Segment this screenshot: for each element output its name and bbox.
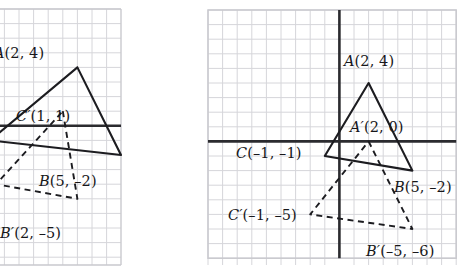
- label-B: B(5, –2): [39, 174, 97, 189]
- label-C-point: C: [236, 145, 247, 161]
- right-coordinate-grid: A(2, 4) A′(2, 0) C(–1, –1) B(5, –2) C′(–…: [204, 6, 462, 270]
- label-B-prime: B′(–5, –6): [366, 244, 434, 259]
- label-A-prime: A′(2, 0): [350, 120, 404, 135]
- label-A: A(2, 4): [0, 46, 44, 61]
- label-A-coords: (2, 4): [355, 53, 395, 69]
- label-A: A(2, 4): [344, 54, 394, 69]
- label-B-prime-coords: (–5, –6): [380, 243, 434, 259]
- label-B-coords: (5, –2): [50, 173, 97, 189]
- label-A-point: A: [344, 53, 355, 69]
- label-C-prime-point: C′: [228, 207, 243, 223]
- label-C-prime: C′(1, 1): [16, 109, 70, 124]
- label-C-prime-coords: (1, 1): [31, 108, 71, 124]
- label-B-point: B: [39, 173, 50, 189]
- label-B-prime-point: B′: [366, 243, 380, 259]
- label-A-coords: (2, 4): [5, 45, 45, 61]
- label-A-prime-point: A′: [350, 119, 364, 135]
- label-B-point: B: [394, 179, 405, 195]
- right-grid-svg: [204, 6, 462, 270]
- label-A-prime-coords: (2, 0): [364, 119, 404, 135]
- label-B-prime-coords: (2, –5): [14, 225, 61, 241]
- label-B-coords: (5, –2): [405, 179, 452, 195]
- label-C-prime-coords: (–1, –5): [243, 207, 297, 223]
- right-grid-background: [204, 6, 462, 270]
- left-coordinate-grid: A(2, 4) C′(1, 1) B(5, –2) B′(2, –5): [0, 6, 126, 270]
- label-C-prime-point: C′: [16, 108, 31, 124]
- label-B-prime-point: B′: [0, 225, 14, 241]
- figure-container: A(2, 4) C′(1, 1) B(5, –2) B′(2, –5): [0, 0, 468, 276]
- label-B: B(5, –2): [394, 180, 452, 195]
- label-C-prime: C′(–1, –5): [228, 208, 297, 223]
- label-C-coords: (–1, –1): [247, 145, 301, 161]
- label-C: C(–1, –1): [236, 146, 302, 161]
- label-B-prime: B′(2, –5): [0, 226, 61, 241]
